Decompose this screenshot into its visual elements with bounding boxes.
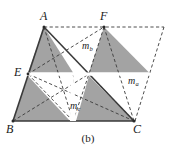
median-label-mb-sub: b <box>89 45 92 52</box>
shaded-triangle-upper-right <box>89 27 149 73</box>
vertex-label-e: E <box>14 66 21 78</box>
figure-canvas <box>0 0 176 153</box>
vertex-label-f: F <box>100 10 107 22</box>
figure-caption: (b) <box>0 132 176 144</box>
vertex-dot-e <box>27 73 30 76</box>
median-label-mb: mb <box>82 41 92 51</box>
shaded-triangle-lower-right <box>76 76 134 121</box>
vertex-dot-a <box>43 26 46 29</box>
geometry-figure: A B C E F mb ma mc (b) <box>0 0 176 153</box>
median-label-mc-sub: c <box>77 105 80 112</box>
vertex-label-a: A <box>40 10 47 22</box>
median-label-ma-sub: a <box>135 80 138 87</box>
median-label-mc: mc <box>70 101 80 111</box>
median-label-ma: ma <box>128 76 138 86</box>
vertex-dot-f <box>103 26 106 29</box>
